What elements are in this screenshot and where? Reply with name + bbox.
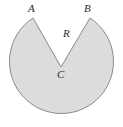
label-point-b: B — [84, 3, 91, 14]
label-radius-r: R — [63, 28, 70, 39]
notched-disc-path — [9, 18, 113, 113]
notched-circle-shape — [0, 0, 123, 127]
label-center-c: C — [57, 69, 64, 80]
figure-container: A B R C — [0, 0, 123, 127]
label-point-a: A — [28, 3, 35, 14]
